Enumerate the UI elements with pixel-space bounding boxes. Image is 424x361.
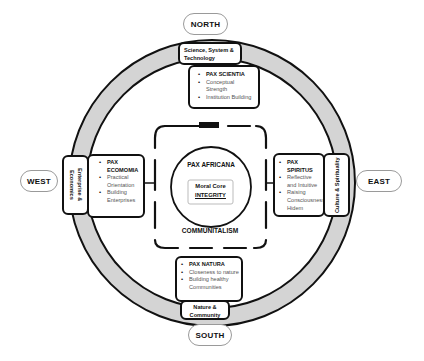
north-item: PAX SCIENTIA [206,71,256,79]
west-heading-box: Enterprise & Economics [62,155,89,215]
east-item: Reflective and Intuitive [287,174,321,189]
east-item: PAX SPIRITUS [287,159,321,174]
north-item: Conceptual Strength [206,79,256,94]
west-label: WEST [20,170,58,192]
north-content-box: PAX SCIENTIA Conceptual Strength Institu… [188,65,260,109]
east-content-box: PAX SPIRITUS Reflective and Intuitive Ra… [273,153,325,217]
south-item: Building healthy Communities [189,276,239,291]
north-heading-box: Science, System & Technology [178,42,242,65]
south-heading-box: Nature & Community [180,300,230,320]
west-item: Building Enterprises [107,189,141,204]
west-heading: Enterprise & Economics [64,157,87,213]
north-label: NORTH [183,13,228,35]
west-content-box: PAX ECOMOMIA Practical Orientation Build… [87,154,145,218]
north-heading: Science, System & Technology [180,44,240,64]
east-label: EAST [356,170,402,192]
communitalism-label: COMMUNITALISM [165,227,255,234]
south-list: PAX NATURA Closeness to nature Building … [183,261,239,291]
east-heading-box: Culture & Spirituality [323,153,350,217]
integrity-label: INTEGRITY [188,192,233,198]
south-heading: Nature & Community [182,302,228,320]
west-item: Practical Orientation [107,174,141,189]
moral-core-label: Moral Core [188,183,233,189]
east-list: PAX SPIRITUS Reflective and Intuitive Ra… [281,159,321,212]
south-content-box: PAX NATURA Closeness to nature Building … [175,256,243,302]
north-list: PAX SCIENTIA Conceptual Strength Institu… [196,71,256,101]
south-item: Closeness to nature [189,269,239,277]
west-list: PAX ECOMOMIA Practical Orientation Build… [97,159,141,205]
pax-africana-label: PAX AFRICANA [171,161,251,168]
south-item: PAX NATURA [189,261,239,269]
south-label: SOUTH [188,324,232,346]
frame-top-bar [199,122,219,128]
north-item: Institution Building [206,94,256,102]
east-item: Raising Consciousness, Hidem [287,189,321,212]
west-item: PAX ECOMOMIA [107,159,141,174]
east-heading: Culture & Spirituality [325,155,348,215]
